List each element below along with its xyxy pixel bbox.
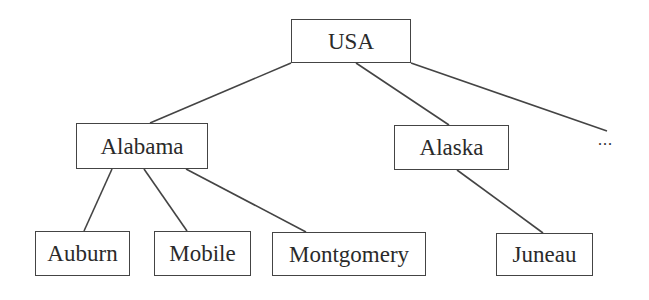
node-label: USA <box>328 30 374 53</box>
edge-usa-alabama <box>150 63 291 123</box>
node-usa: USA <box>291 19 411 63</box>
edge-alaska-juneau <box>457 170 543 233</box>
node-label: Montgomery <box>289 243 409 266</box>
node-label: Juneau <box>513 243 577 266</box>
edge-alabama-montgomery <box>186 169 306 232</box>
edge-usa-alaska <box>356 63 449 125</box>
more-states-ellipsis: ... <box>598 131 613 149</box>
edge-usa-more <box>411 63 607 131</box>
node-auburn: Auburn <box>35 231 130 276</box>
node-montgomery: Montgomery <box>272 232 426 276</box>
node-alabama: Alabama <box>76 123 208 169</box>
node-mobile: Mobile <box>154 231 251 276</box>
node-label: Alabama <box>100 135 183 158</box>
edge-alabama-mobile <box>144 169 187 231</box>
node-label: Auburn <box>47 242 117 265</box>
edge-alabama-auburn <box>84 169 112 231</box>
node-juneau: Juneau <box>496 233 593 276</box>
node-label: Mobile <box>169 242 235 265</box>
node-alaska: Alaska <box>394 125 509 170</box>
node-label: Alaska <box>420 136 484 159</box>
